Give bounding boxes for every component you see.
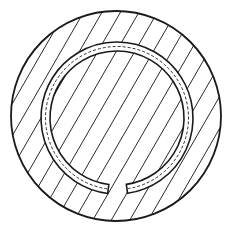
background	[0, 0, 230, 231]
cross-section-diagram	[0, 0, 230, 231]
